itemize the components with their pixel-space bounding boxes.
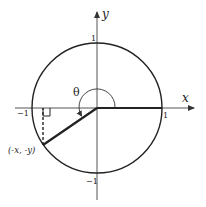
tick-label-x-positive: 1 [163,111,168,120]
terminal-side [43,108,97,145]
unit-circle-diagram: y x 1 −1 1 −1 θ (-x, -y) [0,0,206,207]
tick-label-y-positive: 1 [91,34,96,43]
point-label: (-x, -y) [8,145,35,155]
y-axis-label: y [101,7,109,21]
tick-label-x-negative: −1 [17,109,29,118]
tick-label-y-negative: −1 [86,177,98,186]
theta-label: θ [73,86,80,99]
x-axis-label: x [182,91,189,105]
right-angle-marker [43,108,50,116]
